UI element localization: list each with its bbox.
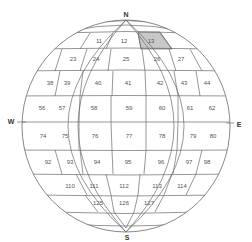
cell-label-127: 127 [144,200,155,206]
compass-west: W [8,118,15,125]
cell-label-97: 97 [186,159,193,165]
cell-label-78: 78 [159,133,166,139]
cell-label-95: 95 [125,159,132,165]
cell-label-44: 44 [204,80,211,86]
cell-label-62: 62 [209,105,216,111]
cell-label-74: 74 [40,133,47,139]
cell-label-93: 93 [67,159,74,165]
cell-label-126: 126 [119,200,130,206]
cell-label-24: 24 [93,56,100,62]
cell-label-98: 98 [204,159,211,165]
cell-label-42: 42 [157,80,164,86]
cell-label-27: 27 [178,56,185,62]
cell-label-56: 56 [39,105,46,111]
cell-label-75: 75 [62,133,69,139]
cell-label-80: 80 [210,133,217,139]
cell-label-96: 96 [158,159,165,165]
cell-label-39: 39 [64,80,71,86]
compass-north: N [123,11,128,18]
compass-east: E [237,121,242,128]
cell-label-112: 112 [119,183,129,189]
cell-label-114: 114 [177,183,187,189]
cell-label-38: 38 [47,80,54,86]
cell-label-25: 25 [123,56,130,62]
cell-label-57: 57 [59,105,66,111]
cell-label-11: 11 [96,38,103,44]
cell-label-79: 79 [190,133,197,139]
compass-south: S [125,234,130,241]
cell-label-59: 59 [126,105,133,111]
cell-label-76: 76 [92,133,99,139]
cell-label-58: 58 [91,105,98,111]
globe-grid-diagram: 1112132324252627383940414243445657585960… [0,0,252,242]
cell-label-41: 41 [125,80,132,86]
cell-label-113: 113 [152,183,162,189]
cell-label-13: 13 [148,38,155,44]
cell-label-43: 43 [181,80,188,86]
cell-label-94: 94 [94,159,101,165]
cell-label-110: 110 [65,183,75,189]
cell-label-92: 92 [45,159,52,165]
cell-label-111: 111 [89,183,99,189]
cell-label-61: 61 [187,105,194,111]
cell-label-12: 12 [121,38,128,44]
cell-label-40: 40 [95,80,102,86]
cell-label-60: 60 [159,105,166,111]
cell-label-125: 125 [93,200,104,206]
cell-label-26: 26 [154,56,161,62]
cell-label-77: 77 [126,133,133,139]
cell-label-23: 23 [70,56,77,62]
